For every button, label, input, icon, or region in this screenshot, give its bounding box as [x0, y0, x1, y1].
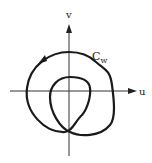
v-axis-arrowhead-icon — [66, 24, 72, 33]
u-axis-arrowhead-icon — [128, 88, 137, 94]
v-axis — [66, 24, 72, 156]
u-axis — [10, 88, 137, 94]
u-axis-label: u — [139, 86, 146, 97]
curve-label: Cw — [92, 50, 107, 65]
direction-arrow-icon — [38, 55, 47, 64]
winding-diagram: v u Cw — [0, 0, 152, 163]
v-axis-label: v — [65, 9, 72, 20]
